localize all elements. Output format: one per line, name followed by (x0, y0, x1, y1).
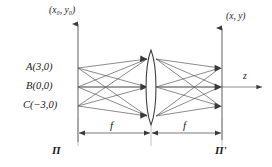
convex-lens (146, 50, 156, 125)
focal-dimension-left (78, 118, 151, 146)
focal-dimension-right (152, 118, 222, 146)
point-label-b: B(0,0) (26, 81, 53, 92)
object-axis-label: (x₀, y₀) (49, 6, 75, 16)
point-label-b-text: B(0,0) (26, 80, 53, 91)
plane-label-object: Π (52, 145, 61, 156)
point-label-c: C(−3,0) (23, 100, 57, 111)
point-label-a-text: A(3,0) (26, 61, 53, 72)
point-label-c-text: C(−3,0) (23, 99, 57, 110)
z-axis-label-text: z (243, 71, 247, 81)
image-axis-label-text: (x, y) (226, 11, 246, 21)
object-axis-label-text: (x₀, y₀) (49, 5, 75, 15)
focal-label-left: f (110, 120, 113, 131)
focal-label-right-text: f (183, 119, 186, 131)
plane-label-image-text: Π' (215, 144, 227, 156)
emergent-rays (156, 59, 220, 116)
incident-rays (78, 59, 147, 116)
point-label-a: A(3,0) (26, 62, 53, 73)
image-axis-label: (x, y) (226, 12, 246, 22)
z-axis-label: z (243, 72, 247, 82)
plane-label-object-text: Π (52, 144, 61, 156)
focal-label-left-text: f (110, 119, 113, 131)
figure-canvas: (x₀, y₀) (x, y) A(3,0) B(0,0) C(−3,0) f … (0, 0, 272, 167)
focal-label-right: f (183, 120, 186, 131)
plane-label-image: Π' (215, 145, 227, 156)
